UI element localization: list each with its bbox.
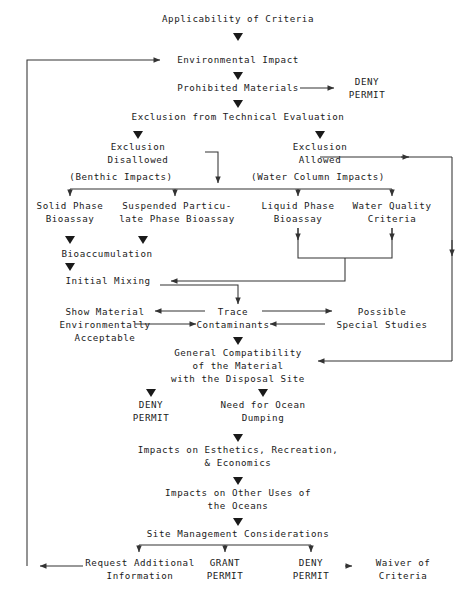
down-arrow-icon xyxy=(315,131,325,139)
down-arrow-icon xyxy=(65,263,75,271)
node-water-quality-criteria: Water Quality Criteria xyxy=(352,199,431,225)
node-environmental-impact: Environmental Impact xyxy=(177,53,299,66)
node-liquid-phase-bioassay: Liquid Phase Bioassay xyxy=(262,199,335,225)
down-arrow-icon xyxy=(65,236,75,244)
down-arrow-icon xyxy=(233,72,243,80)
node-bioaccumulation: Bioaccumulation xyxy=(61,247,152,260)
node-grant-permit: GRANT PERMIT xyxy=(207,556,244,582)
node-request-additional-information: Request Additional Information xyxy=(85,556,194,582)
node-site-management-considerations: Site Management Considerations xyxy=(147,527,329,540)
down-arrow-icon xyxy=(233,337,243,345)
node-prohibited-materials: Prohibited Materials xyxy=(177,81,299,94)
node-exclusion-allowed: Exclusion Allowed xyxy=(293,140,348,166)
node-impacts-on-esthetics-recreation-economics: Impacts on Esthetics, Recreation, & Econ… xyxy=(138,443,339,469)
down-arrow-icon xyxy=(233,518,243,526)
node-general-compatibility: General Compatibility of the Material wi… xyxy=(171,346,305,386)
down-arrow-icon xyxy=(233,100,243,108)
node-deny-permit-prohibited: DENY PERMIT xyxy=(349,75,386,101)
node-applicability-of-criteria: Applicability of Criteria xyxy=(162,12,314,25)
node-impacts-on-other-uses-of-the-oceans: Impacts on Other Uses of the Oceans xyxy=(165,486,311,512)
down-arrow-icon xyxy=(133,131,143,139)
node-initial-mixing: Initial Mixing xyxy=(65,274,150,287)
down-arrow-icon xyxy=(146,389,156,397)
node-need-for-ocean-dumping: Need for Ocean Dumping xyxy=(220,398,305,424)
label-benthic-impacts: (Benthic Impacts) xyxy=(69,170,172,183)
node-waiver-of-criteria: Waiver of Criteria xyxy=(376,556,431,582)
node-suspended-particulate-phase-bioassay: Suspended Particu- late Phase Bioassay xyxy=(119,199,235,225)
node-deny-permit-compatibility: DENY PERMIT xyxy=(133,398,170,424)
down-arrow-icon xyxy=(233,477,243,485)
node-solid-phase-bioassay: Solid Phase Bioassay xyxy=(37,199,104,225)
flowchart-canvas: Applicability of Criteria Environmental … xyxy=(0,0,475,597)
label-water-column-impacts: (Water Column Impacts) xyxy=(251,170,385,183)
down-arrow-icon xyxy=(258,389,268,397)
node-show-material-environmentally-acceptable: Show Material Environmentally Acceptable xyxy=(59,305,150,345)
node-trace-contaminants: Trace Contaminants xyxy=(197,305,270,331)
down-arrow-icon xyxy=(233,434,243,442)
node-deny-permit-final: DENY PERMIT xyxy=(293,556,330,582)
down-arrow-icon xyxy=(233,33,243,41)
node-exclusion-from-technical-evaluation: Exclusion from Technical Evaluation xyxy=(132,110,345,123)
node-exclusion-disallowed: Exclusion Disallowed xyxy=(108,140,169,166)
down-arrow-icon xyxy=(138,236,148,244)
node-possible-special-studies: Possible Special Studies xyxy=(336,305,427,331)
